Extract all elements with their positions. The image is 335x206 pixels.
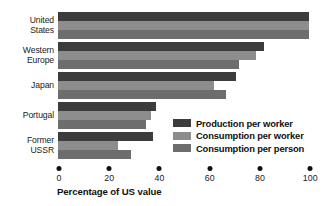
bar (58, 12, 309, 21)
axis-tick-dot (57, 166, 62, 171)
legend-label: Production per worker (196, 118, 293, 129)
axis-tick-label: 100 (303, 173, 318, 183)
bar-group-united-states (58, 12, 335, 39)
bar (58, 90, 226, 99)
bar (58, 141, 118, 150)
legend-swatch (173, 119, 191, 127)
bar (58, 102, 156, 111)
axis-tick-dot (257, 166, 262, 171)
bar (58, 111, 151, 120)
bar (58, 81, 214, 90)
legend-item: Production per worker (173, 117, 304, 130)
axis-tick-dot (107, 166, 112, 171)
bar (58, 42, 264, 51)
axis-tick-dot (157, 166, 162, 171)
legend-label: Consumption per worker (196, 130, 304, 141)
bar (58, 60, 239, 69)
axis-title: Percentage of US value (57, 186, 161, 197)
chart-legend: Production per workerConsumption per wor… (173, 117, 304, 155)
axis-tick-label: 20 (104, 173, 114, 183)
value-axis: Percentage of US value 020406080100 (58, 166, 335, 206)
legend-label: Consumption per person (196, 143, 304, 154)
category-label-western-europe: Europe (0, 56, 54, 66)
legend-swatch (173, 132, 191, 140)
legend-swatch (173, 144, 191, 152)
category-label-japan: Japan (0, 81, 54, 91)
bar (58, 72, 236, 81)
bar (58, 21, 309, 30)
axis-tick-dot (308, 166, 313, 171)
axis-tick-label: 80 (255, 173, 265, 183)
axis-tick-label: 60 (205, 173, 215, 183)
axis-tick-label: 40 (155, 173, 165, 183)
bar-group-western-europe (58, 42, 335, 69)
axis-tick-dot (207, 166, 212, 171)
legend-item: Consumption per person (173, 142, 304, 155)
bar-group-japan (58, 72, 335, 99)
bar (58, 150, 131, 159)
bar (58, 30, 309, 39)
category-label-portugal: Portugal (0, 111, 54, 121)
bar-chart: UnitedStatesWesternEuropeJapanPortugalFo… (0, 0, 335, 206)
category-label-former-ussr: USSR (0, 146, 54, 156)
legend-item: Consumption per worker (173, 130, 304, 143)
bar (58, 132, 153, 141)
bar (58, 120, 146, 129)
axis-tick-label: 0 (57, 173, 62, 183)
category-label-united-states: States (0, 26, 54, 36)
bar (58, 51, 256, 60)
